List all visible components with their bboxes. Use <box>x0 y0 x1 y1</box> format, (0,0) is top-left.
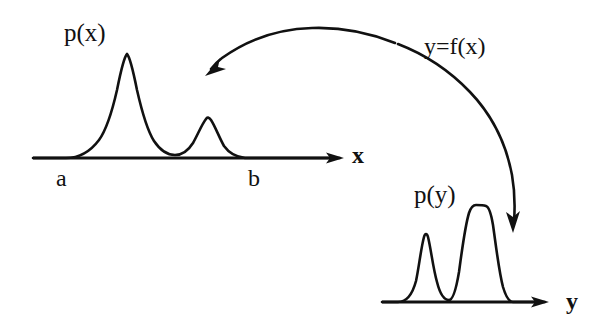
mapping-arrow-left-shaft <box>211 28 395 69</box>
density-label-py: p(y) <box>414 182 456 207</box>
density-label-px: p(x) <box>64 20 106 45</box>
density-curve-py <box>382 205 545 302</box>
axis-label-x: x <box>352 143 364 167</box>
figure-root: p(x) p(y) y=f(x) x y a b <box>0 0 614 329</box>
mapping-label-yfx: y=f(x) <box>424 34 486 58</box>
axis-label-y: y <box>566 289 578 313</box>
figure-canvas <box>0 0 614 329</box>
interval-label-b: b <box>248 166 260 190</box>
mapping-arrow-right-head <box>506 211 520 233</box>
density-curve-px <box>33 54 340 158</box>
interval-label-a: a <box>56 166 67 190</box>
mapping-arrow-left-head <box>205 58 226 76</box>
